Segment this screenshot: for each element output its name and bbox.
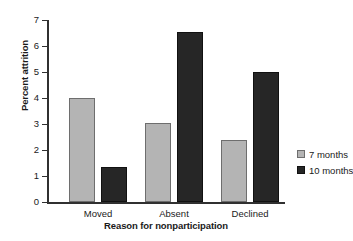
y-tick-label: 5 bbox=[21, 65, 39, 78]
y-tick-label: 0 bbox=[21, 195, 39, 208]
legend-item-10-months[interactable]: 10 months bbox=[297, 163, 353, 177]
plot-area: 01234567 MovedAbsentDeclined bbox=[47, 20, 285, 202]
y-tick-label: 7 bbox=[21, 13, 39, 26]
bar-moved-10-months bbox=[101, 167, 127, 202]
x-axis-title: Reason for nonparticipation bbox=[47, 220, 285, 231]
bar-declined-7-months bbox=[221, 140, 247, 202]
y-tick-label: 3 bbox=[21, 117, 39, 130]
x-category-label-declined: Declined bbox=[211, 208, 289, 219]
y-tick-label: 2 bbox=[21, 143, 39, 156]
y-tick-mark bbox=[42, 46, 47, 47]
legend-label: 7 months bbox=[309, 149, 348, 160]
y-axis-line bbox=[47, 20, 49, 202]
bar-chart-figure: Percent attrition 01234567 MovedAbsentDe… bbox=[0, 0, 353, 241]
legend-swatch-icon bbox=[297, 166, 305, 174]
bar-moved-7-months bbox=[69, 98, 95, 202]
y-tick-label: 1 bbox=[21, 169, 39, 182]
chart-legend: 7 months10 months bbox=[297, 147, 353, 179]
bar-absent-7-months bbox=[145, 123, 171, 202]
legend-item-7-months[interactable]: 7 months bbox=[297, 147, 353, 161]
y-tick-label: 6 bbox=[21, 39, 39, 52]
bar-declined-10-months bbox=[253, 72, 279, 202]
y-tick-mark bbox=[42, 176, 47, 177]
y-tick-mark bbox=[42, 20, 47, 21]
y-tick-label: 4 bbox=[21, 91, 39, 104]
y-tick-mark bbox=[42, 202, 47, 203]
x-axis-line bbox=[47, 202, 285, 204]
bar-absent-10-months bbox=[177, 32, 203, 202]
y-tick-mark bbox=[42, 98, 47, 99]
legend-label: 10 months bbox=[309, 165, 353, 176]
legend-swatch-icon bbox=[297, 150, 305, 158]
x-category-label-moved: Moved bbox=[59, 208, 137, 219]
y-tick-mark bbox=[42, 72, 47, 73]
x-category-label-absent: Absent bbox=[135, 208, 213, 219]
y-tick-mark bbox=[42, 124, 47, 125]
y-tick-mark bbox=[42, 150, 47, 151]
